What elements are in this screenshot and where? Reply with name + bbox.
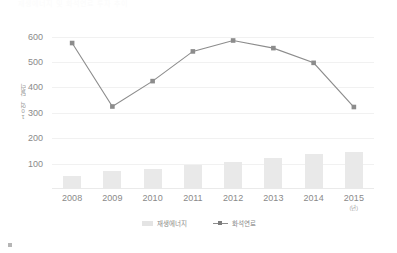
y-tick-label: 200 [28,133,43,143]
y-tick-label: 300 [28,108,43,118]
data-point-marker [150,79,155,84]
x-axis-unit-label: (년) [350,204,359,212]
bar-swatch-icon [142,221,153,226]
line-marker-swatch-icon [213,220,228,227]
line-path [72,41,354,108]
legend-item-fossil[interactable]: 화석연료 [213,218,256,228]
y-tick-label: 100 [28,159,43,169]
x-tick-label: 2011 [183,193,202,203]
y-tick-label: 500 [28,57,43,67]
data-point-marker [352,105,357,110]
y-tick-label: 600 [28,32,43,42]
x-tick-label: 2013 [263,193,283,203]
line-path-svg [52,24,374,189]
legend-label-renewable: 재생에너지 [157,218,187,228]
x-tick-label: 2014 [304,193,324,203]
x-tick-label: 2012 [223,193,243,203]
legend-item-renewable[interactable]: 재생에너지 [142,218,187,228]
line-series-fossil [52,24,374,189]
plot-area [52,24,374,189]
data-point-marker [271,46,276,51]
x-tick-label: 2008 [62,193,82,203]
x-tick-label: 2009 [102,193,122,203]
data-point-marker [110,104,115,109]
y-tick-label: 400 [28,82,43,92]
legend: 재생에너지 화석연료 [0,218,397,228]
data-point-marker [231,38,236,43]
x-tick-label: 2015 [344,193,364,203]
legend-label-fossil: 화석연료 [232,218,256,228]
top-cutoff-text: 재생에너지 및 화석연료 투자 추이 [0,0,397,10]
data-point-marker [70,41,75,46]
data-point-marker [191,49,196,54]
page-bullet-marker [8,243,12,247]
chart-screenshot: 재생에너지 및 화석연료 투자 추이 10억 달러 10020030040050… [0,0,397,253]
data-point-marker [311,61,316,66]
x-tick-label: 2010 [143,193,163,203]
